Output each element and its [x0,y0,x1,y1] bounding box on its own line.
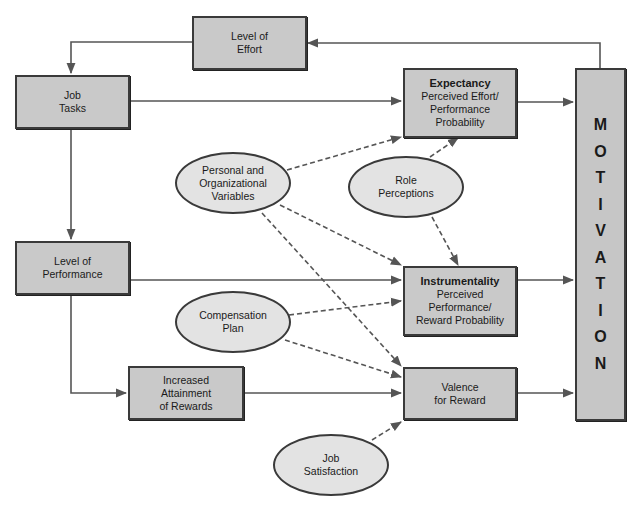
box-label: Perceived Effort/ [421,90,498,103]
box-label: Reward Probability [416,314,504,327]
compensation-plan-ellipse: Compensation Plan [175,291,291,353]
ellipse-label: Organizational [199,177,267,190]
box-label: Effort [237,43,262,56]
edge-personal-to-valence [262,213,401,366]
box-title: Instrumentality [421,275,500,288]
box-label: of Rewards [159,400,212,413]
ellipse-label: Plan [222,322,243,335]
box-label: Level of [54,255,91,268]
motivation-letter: N [595,351,607,378]
edge-role-to-expectancy [430,138,458,157]
valence-box: Valence for Reward [403,367,517,420]
motivation-letter: O [594,139,606,166]
box-label: Tasks [59,102,86,115]
edge-role-to-instrumentality [432,217,458,265]
motivation-letter: O [594,324,606,351]
edge-performance-to-attainment [71,294,126,393]
box-title: Expectancy [429,77,490,90]
job-tasks-box: Job Tasks [15,75,130,129]
personal-organizational-variables-ellipse: Personal and Organizational Variables [175,152,291,214]
edge-jobsat-to-valence [372,422,401,440]
role-perceptions-ellipse: Role Perceptions [348,156,464,218]
expectancy-box: Expectancy Perceived Effort/ Performance… [403,68,517,138]
motivation-letter: M [594,112,607,139]
edge-compensation-to-instrumentality [289,301,401,315]
level-of-effort-box: Level of Effort [192,16,307,70]
ellipse-label: Job [323,452,340,465]
motivation-letter: A [595,245,607,272]
edge-compensation-to-valence [285,340,401,377]
ellipse-label: Perceptions [378,187,433,200]
ellipse-label: Variables [212,190,255,203]
box-label: Perceived [437,288,484,301]
instrumentality-box: Instrumentality Perceived Performance/ R… [403,266,517,336]
motivation-letter: V [595,218,606,245]
box-label: Performance [42,268,102,281]
motivation-letter: I [598,298,602,325]
ellipse-label: Personal and [202,164,264,177]
box-label: Increased [163,374,209,387]
increased-attainment-box: Increased Attainment of Rewards [128,366,244,420]
job-satisfaction-ellipse: Job Satisfaction [273,434,389,496]
motivation-letter: I [598,192,602,219]
edge-effort-to-jobtasks [71,42,192,73]
motivation-letter: T [596,165,606,192]
box-label: Attainment [161,387,211,400]
box-label: Level of [231,30,268,43]
ellipse-label: Compensation [199,309,267,322]
box-label: Performance/ [428,301,491,314]
box-label: Job [64,89,81,102]
level-of-performance-box: Level of Performance [15,241,130,295]
motivation-box: M O T I V A T I O N [575,68,626,421]
box-label: Performance [430,103,490,116]
ellipse-label: Satisfaction [304,465,358,478]
box-label: Probability [435,116,484,129]
edge-motivation-to-effort [308,43,600,68]
box-label: for Reward [434,394,485,407]
box-label: Valence [441,381,478,394]
motivation-letter: T [596,271,606,298]
ellipse-label: Role [395,174,417,187]
